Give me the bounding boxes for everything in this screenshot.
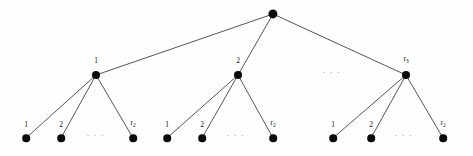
tree-diagram-figure: 12r312r212r212r2 · · ·· · ·· · ·· · · (0, 0, 473, 156)
tree-node-label: r3 (403, 55, 408, 64)
tree-edge (371, 75, 406, 138)
tree-node (163, 134, 171, 142)
tree-node-label: 1 (94, 57, 98, 65)
tree-node-label-subscript: 3 (406, 58, 409, 64)
tree-node (367, 134, 375, 142)
tree-node-label: 1 (331, 121, 335, 129)
tree-node-label-subscript: 2 (133, 122, 136, 128)
tree-node-label: 2 (236, 57, 240, 65)
tree-node (439, 134, 447, 142)
tree-edge (202, 75, 238, 138)
tree-node-label: r2 (270, 120, 275, 129)
tree-node-label-subscript: 2 (443, 122, 446, 128)
tree-node-label-subscript: 2 (273, 122, 276, 128)
tree-node (234, 71, 242, 79)
tree-ellipsis: · · · (87, 133, 106, 140)
tree-node-label: 1 (24, 121, 28, 129)
tree-ellipsis: · · · (395, 133, 414, 140)
tree-node (22, 134, 30, 142)
tree-node-label: r2 (440, 120, 445, 129)
tree-node (57, 134, 65, 142)
tree-node (402, 71, 410, 79)
tree-node (329, 134, 337, 142)
tree-edge (238, 14, 273, 75)
tree-ellipsis: · · · (323, 70, 342, 77)
tree-node (92, 71, 100, 79)
tree-node-label: 2 (59, 121, 63, 129)
tree-edge (238, 75, 273, 138)
tree-node (129, 134, 137, 142)
tree-edge (273, 14, 406, 75)
tree-node-label: 1 (165, 121, 169, 129)
tree-ellipsis: · · · (227, 133, 246, 140)
tree-edge (406, 75, 443, 138)
tree-node-label: 2 (369, 121, 373, 129)
tree-node-label: 2 (200, 121, 204, 129)
tree-edge (61, 75, 96, 138)
tree-node (269, 134, 277, 142)
tree-node-label: r2 (130, 120, 135, 129)
tree-node (198, 134, 206, 142)
tree-edge (96, 75, 133, 138)
tree-edge (96, 14, 273, 75)
